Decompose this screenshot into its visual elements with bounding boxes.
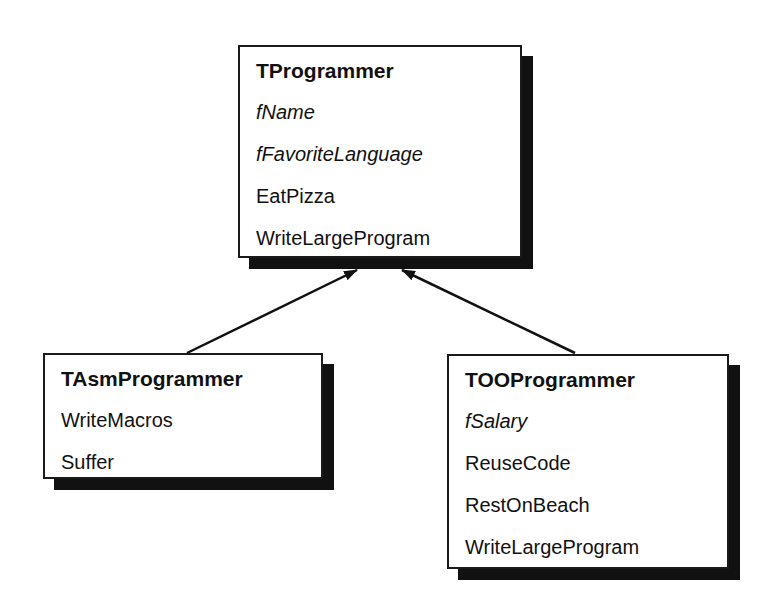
method: ReuseCode: [465, 442, 727, 484]
field: fSalary: [465, 400, 727, 442]
class-name: TProgrammer: [256, 51, 520, 91]
field: fName: [256, 91, 520, 133]
field: fFavoriteLanguage: [256, 133, 520, 175]
method: WriteLargeProgram: [465, 526, 727, 568]
class-box-tooprogrammer: TOOProgrammer fSalary ReuseCode RestOnBe…: [447, 354, 729, 569]
class-name: TAsmProgrammer: [61, 359, 321, 399]
class-box-tasmprogrammer: TAsmProgrammer WriteMacros Suffer: [43, 353, 323, 479]
method: EatPizza: [256, 175, 520, 217]
method: WriteLargeProgram: [256, 217, 520, 259]
method: Suffer: [61, 441, 321, 483]
class-box-tprogrammer: TProgrammer fName fFavoriteLanguage EatP…: [238, 45, 522, 258]
class-name: TOOProgrammer: [465, 360, 727, 400]
method: WriteMacros: [61, 399, 321, 441]
arrow-oo-to-base: [402, 270, 575, 353]
method: RestOnBeach: [465, 484, 727, 526]
arrow-asm-to-base: [187, 270, 357, 353]
